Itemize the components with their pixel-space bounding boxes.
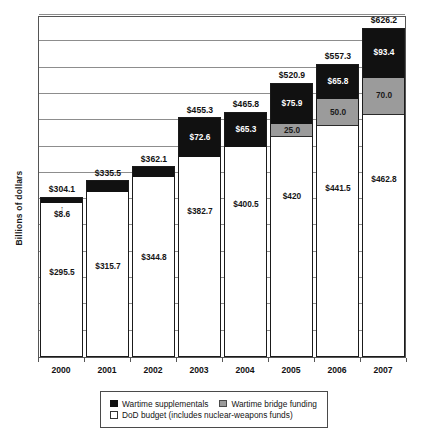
x-axis-label-2006: 2006 bbox=[314, 365, 360, 375]
x-axis-tick bbox=[222, 358, 223, 362]
segment-supplementals-2004[interactable]: $65.3 bbox=[225, 113, 266, 147]
legend-label-dod: DoD budget (includes nuclear-weapons fun… bbox=[122, 410, 293, 420]
x-axis-label-2005: 2005 bbox=[268, 365, 314, 375]
x-axis-tick bbox=[130, 358, 131, 362]
chart-legend: Wartime supplementals Wartime bridge fun… bbox=[100, 391, 328, 428]
legend-item-supplementals: Wartime supplementals bbox=[110, 399, 208, 409]
bar-2001[interactable]: $315.7 bbox=[86, 180, 129, 357]
callout-label: $8.6 bbox=[54, 209, 70, 219]
segment-label-dod-2004: $400.5 bbox=[233, 200, 258, 208]
bar-2003[interactable]: $72.6$382.7 bbox=[178, 117, 221, 357]
segment-bridge-2007[interactable]: 70.0 bbox=[363, 78, 404, 115]
bar-2007[interactable]: $93.470.0$462.8 bbox=[362, 28, 405, 357]
bar-series-container: $295.5$304.1$315.7$335.5$344.8$362.1$72.… bbox=[39, 17, 405, 357]
total-label-2000: $304.1 bbox=[40, 185, 83, 194]
total-label-2002: $362.1 bbox=[132, 155, 175, 164]
segment-label-bridge-2006: 50.0 bbox=[330, 108, 346, 116]
x-axis: 20002001200220032004200520062007 bbox=[38, 358, 406, 359]
chart-root: Billions of dollars $295.5$304.1$315.7$3… bbox=[0, 0, 428, 447]
callout-supplementals-2000: ↑$8.6 bbox=[40, 206, 83, 218]
bar-2000[interactable]: $295.5 bbox=[40, 197, 83, 357]
legend-item-dod: DoD budget (includes nuclear-weapons fun… bbox=[110, 410, 293, 420]
bar-2006[interactable]: $65.850.0$441.5 bbox=[316, 64, 359, 357]
segment-label-dod-2007: $462.8 bbox=[371, 175, 396, 183]
segment-supplementals-2002[interactable] bbox=[133, 167, 174, 176]
legend-row-1: Wartime supplementals Wartime bridge fun… bbox=[110, 399, 320, 409]
legend-label-supplementals: Wartime supplementals bbox=[122, 399, 208, 409]
total-label-2006: $557.3 bbox=[316, 52, 359, 61]
segment-label-supplementals-2006: $65.8 bbox=[328, 77, 349, 85]
segment-label-supplementals-2005: $75.9 bbox=[282, 99, 303, 107]
legend-label-bridge: Wartime bridge funding bbox=[231, 399, 316, 409]
segment-supplementals-2001[interactable] bbox=[87, 181, 128, 191]
segment-label-supplementals-2003: $72.6 bbox=[190, 133, 211, 141]
segment-bridge-2005[interactable]: 25.0 bbox=[271, 124, 312, 137]
segment-label-bridge-2005: 25.0 bbox=[284, 126, 300, 134]
x-axis-tick bbox=[406, 358, 407, 362]
segment-label-dod-2002: $344.8 bbox=[141, 253, 166, 261]
segment-label-dod-2001: $315.7 bbox=[95, 262, 120, 270]
black-square-icon bbox=[110, 400, 118, 408]
segment-dod-2006[interactable]: $441.5 bbox=[317, 126, 358, 356]
total-label-2007: $626.2 bbox=[362, 16, 405, 25]
y-axis-title: Billions of dollars bbox=[14, 128, 24, 288]
segment-supplementals-2006[interactable]: $65.8 bbox=[317, 65, 358, 100]
segment-dod-2003[interactable]: $382.7 bbox=[179, 157, 220, 356]
total-label-2005: $520.9 bbox=[270, 71, 313, 80]
plot-area: $295.5$304.1$315.7$335.5$344.8$362.1$72.… bbox=[38, 16, 406, 358]
x-axis-label-2001: 2001 bbox=[84, 365, 130, 375]
segment-dod-2005[interactable]: $420 bbox=[271, 137, 312, 356]
segment-dod-2002[interactable]: $344.8 bbox=[133, 177, 174, 356]
bar-2004[interactable]: $65.3$400.5 bbox=[224, 112, 267, 357]
bar-2005[interactable]: $75.925.0$420 bbox=[270, 83, 313, 357]
x-axis-label-2002: 2002 bbox=[130, 365, 176, 375]
total-label-2001: $335.5 bbox=[86, 169, 129, 178]
total-label-2003: $455.3 bbox=[178, 106, 221, 115]
x-axis-label-2003: 2003 bbox=[176, 365, 222, 375]
segment-supplementals-2005[interactable]: $75.9 bbox=[271, 84, 312, 124]
segment-dod-2001[interactable]: $315.7 bbox=[87, 192, 128, 356]
segment-dod-2000[interactable]: $295.5 bbox=[41, 203, 82, 356]
x-axis-label-2004: 2004 bbox=[222, 365, 268, 375]
x-axis-tick bbox=[360, 358, 361, 362]
segment-label-dod-2000: $295.5 bbox=[49, 268, 74, 276]
segment-label-supplementals-2007: $93.4 bbox=[374, 48, 395, 56]
total-label-2004: $465.8 bbox=[224, 100, 267, 109]
segment-supplementals-2007[interactable]: $93.4 bbox=[363, 29, 404, 78]
segment-dod-2004[interactable]: $400.5 bbox=[225, 147, 266, 356]
segment-label-supplementals-2004: $65.3 bbox=[236, 125, 257, 133]
x-axis-label-2000: 2000 bbox=[38, 365, 84, 375]
legend-item-bridge: Wartime bridge funding bbox=[219, 399, 316, 409]
segment-label-dod-2006: $441.5 bbox=[325, 184, 350, 192]
segment-dod-2007[interactable]: $462.8 bbox=[363, 115, 404, 357]
segment-bridge-2006[interactable]: 50.0 bbox=[317, 99, 358, 125]
x-axis-tick bbox=[84, 358, 85, 362]
segment-supplementals-2003[interactable]: $72.6 bbox=[179, 118, 220, 156]
legend-row-2: DoD budget (includes nuclear-weapons fun… bbox=[110, 410, 320, 420]
segment-label-bridge-2007: 70.0 bbox=[376, 91, 392, 99]
segment-label-dod-2003: $382.7 bbox=[187, 207, 212, 215]
segment-label-dod-2005: $420 bbox=[283, 192, 301, 200]
bar-2002[interactable]: $344.8 bbox=[132, 166, 175, 357]
gridline bbox=[39, 14, 405, 15]
x-axis-tick bbox=[314, 358, 315, 362]
gray-square-icon bbox=[219, 400, 227, 408]
x-axis-tick bbox=[176, 358, 177, 362]
x-axis-tick bbox=[38, 358, 39, 362]
white-square-icon bbox=[110, 411, 118, 419]
x-axis-label-2007: 2007 bbox=[360, 365, 406, 375]
x-axis-tick bbox=[268, 358, 269, 362]
